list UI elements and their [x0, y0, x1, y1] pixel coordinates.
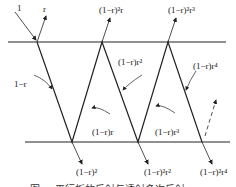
leader-inner-1 — [92, 108, 110, 114]
reflected-ray-1 — [37, 16, 46, 42]
label-reflect-3: (1−r)²r³ — [168, 6, 195, 15]
incident-ray — [15, 12, 36, 40]
reflected-ray-3 — [168, 18, 176, 42]
label-inner-4: (1−r)r⁴ — [193, 62, 218, 71]
transmitted-ray-2 — [138, 142, 148, 164]
reflected-ray-2 — [102, 18, 110, 42]
label-inner-1: (1−r)r — [92, 128, 114, 137]
label-incident: 1 — [17, 4, 22, 13]
transmitted-ray-3 — [202, 142, 212, 164]
transmitted-ray-1 — [72, 142, 82, 164]
label-reflect-2: (1−r)²r — [99, 6, 123, 15]
label-reflect-1: r — [43, 5, 46, 14]
leader-inner-4 — [186, 71, 196, 90]
dashed-continuation-ray — [205, 100, 216, 136]
label-trans-1: (1−r)² — [76, 168, 97, 177]
leader-inner-2 — [123, 75, 142, 90]
diagram-canvas — [0, 0, 236, 187]
label-inner-3: (1−r)r³ — [155, 128, 179, 137]
label-trans-2: (1−r)²r² — [144, 168, 171, 177]
leader-inner-3 — [156, 106, 175, 113]
label-trans-in: 1−r — [14, 80, 27, 89]
label-inner-2: (1−r)r² — [118, 58, 142, 67]
label-trans-3: (1−r)²r⁴ — [200, 168, 227, 177]
figure-caption: 图 — 平行板的反射与透射多次反射 — [30, 181, 185, 187]
